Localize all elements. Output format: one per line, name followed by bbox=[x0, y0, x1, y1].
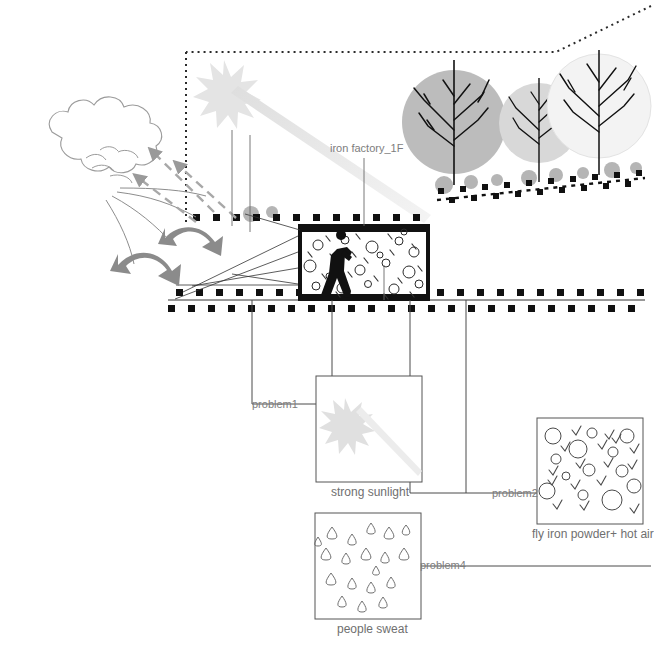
panel-people-sweat[interactable] bbox=[315, 513, 421, 619]
leader-problem2 bbox=[410, 300, 537, 493]
caption-people-sweat: people sweat bbox=[337, 622, 408, 636]
tree-large bbox=[402, 60, 506, 185]
panel-fly-iron-powder[interactable] bbox=[537, 418, 643, 524]
wind-cloud bbox=[49, 97, 161, 183]
iron-factory-label: iron factory_1F bbox=[330, 142, 403, 155]
panel-strong-sunlight[interactable] bbox=[316, 376, 422, 482]
air-flow-arrows bbox=[110, 227, 223, 286]
problem2-label: problem2 bbox=[492, 487, 538, 500]
iron-factory-building bbox=[298, 224, 430, 301]
problem1-label: problem1 bbox=[252, 398, 298, 411]
caption-strong-sunlight: strong sunlight bbox=[331, 485, 409, 499]
wind-streams bbox=[106, 188, 206, 264]
caption-fly-iron-powder: fly iron powder+ hot air bbox=[532, 527, 654, 541]
ground-band-upper bbox=[193, 214, 420, 221]
tree-small bbox=[547, 50, 651, 175]
sun-burst bbox=[193, 60, 261, 129]
problem4-label: problem4 bbox=[420, 559, 466, 572]
sight-lines bbox=[175, 214, 300, 299]
